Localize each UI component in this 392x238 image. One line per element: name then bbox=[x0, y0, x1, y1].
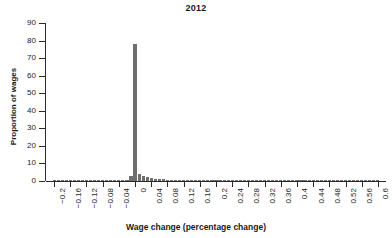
histogram-bar bbox=[271, 180, 274, 181]
histogram-bar bbox=[210, 180, 213, 181]
histogram-bar bbox=[291, 180, 294, 181]
histogram-bar bbox=[239, 180, 242, 181]
x-tick-label: −0.12 bbox=[90, 188, 99, 222]
x-tick-label: 0.36 bbox=[284, 188, 293, 222]
histogram-bar bbox=[97, 180, 100, 181]
y-tick-mark bbox=[39, 23, 45, 24]
x-tick-mark bbox=[135, 182, 136, 187]
x-tick-mark bbox=[313, 182, 314, 187]
x-tick-mark bbox=[297, 182, 298, 187]
histogram-bar bbox=[287, 180, 290, 181]
y-tick-mark bbox=[39, 146, 45, 147]
x-tick-mark bbox=[329, 182, 330, 187]
x-tick-mark bbox=[119, 182, 120, 187]
y-tick-label: 80 bbox=[0, 36, 36, 45]
histogram-bar bbox=[332, 180, 335, 181]
histogram-bar bbox=[312, 180, 315, 181]
histogram-bar bbox=[178, 180, 181, 181]
x-tick-label: 0 bbox=[139, 188, 148, 222]
y-tick-label: 20 bbox=[0, 141, 36, 150]
y-tick-label: 90 bbox=[0, 18, 36, 27]
x-tick-label: 0.24 bbox=[236, 188, 245, 222]
x-tick-mark bbox=[346, 182, 347, 187]
histogram-bar bbox=[133, 44, 136, 181]
histogram-bar bbox=[57, 180, 60, 181]
histogram-bar bbox=[344, 180, 347, 181]
histogram-bar bbox=[53, 180, 56, 181]
x-tick-label: 0.48 bbox=[333, 188, 342, 222]
histogram-bar bbox=[206, 180, 209, 181]
x-tick-mark bbox=[248, 182, 249, 187]
histogram-bar bbox=[223, 180, 226, 181]
histogram-bar bbox=[65, 180, 68, 181]
y-tick-mark bbox=[39, 58, 45, 59]
y-tick-mark bbox=[39, 93, 45, 94]
y-tick-mark bbox=[39, 181, 45, 182]
y-tick-label: 70 bbox=[0, 53, 36, 62]
y-tick-mark bbox=[39, 41, 45, 42]
histogram-bar bbox=[121, 180, 124, 181]
histogram-bar bbox=[279, 180, 282, 181]
histogram-bar bbox=[348, 180, 351, 181]
histogram-bar bbox=[174, 180, 177, 181]
histogram-bar bbox=[138, 174, 141, 181]
x-tick-mark bbox=[200, 182, 201, 187]
histogram-bar bbox=[109, 180, 112, 181]
histogram-bar bbox=[376, 180, 379, 181]
histogram-bar bbox=[255, 180, 258, 181]
histogram-bar bbox=[295, 180, 298, 181]
histogram-bar bbox=[340, 180, 343, 181]
y-tick-label: 10 bbox=[0, 158, 36, 167]
histogram-bar bbox=[194, 180, 197, 181]
x-tick-mark bbox=[232, 182, 233, 187]
x-tick-mark bbox=[54, 182, 55, 187]
histogram-bar bbox=[368, 180, 371, 181]
histogram-bar bbox=[113, 180, 116, 181]
histogram-bar bbox=[150, 178, 153, 181]
histogram-bar bbox=[158, 179, 161, 181]
histogram-bar bbox=[231, 180, 234, 181]
histogram-bar bbox=[336, 180, 339, 181]
y-tick-mark bbox=[39, 111, 45, 112]
histogram-bar bbox=[166, 180, 169, 181]
x-tick-label: 0.44 bbox=[317, 188, 326, 222]
histogram-bar bbox=[360, 180, 363, 181]
histogram-bars bbox=[46, 23, 386, 181]
histogram-bar bbox=[218, 180, 221, 181]
histogram-bar bbox=[182, 180, 185, 181]
histogram-bar bbox=[129, 176, 132, 181]
histogram-bar bbox=[251, 180, 254, 181]
x-tick-mark bbox=[103, 182, 104, 187]
histogram-bar bbox=[364, 180, 367, 181]
x-tick-label: 0.08 bbox=[171, 188, 180, 222]
histogram-bar bbox=[308, 180, 311, 181]
histogram-bar bbox=[352, 180, 355, 181]
x-tick-mark bbox=[151, 182, 152, 187]
histogram-bar bbox=[154, 179, 157, 181]
y-tick-label: 30 bbox=[0, 123, 36, 132]
histogram-bar bbox=[93, 180, 96, 181]
x-tick-mark bbox=[216, 182, 217, 187]
histogram-bar bbox=[117, 180, 120, 181]
histogram-bar bbox=[202, 180, 205, 181]
histogram-bar bbox=[372, 180, 375, 181]
x-tick-mark bbox=[167, 182, 168, 187]
y-tick-label: 40 bbox=[0, 106, 36, 115]
x-tick-mark bbox=[70, 182, 71, 187]
histogram-bar bbox=[61, 180, 64, 181]
histogram-bar bbox=[259, 180, 262, 181]
histogram-bar bbox=[356, 180, 359, 181]
histogram-bar bbox=[142, 176, 145, 181]
histogram-bar bbox=[214, 180, 217, 181]
x-tick-label: 0.6 bbox=[381, 188, 390, 222]
x-tick-label: 0.2 bbox=[220, 188, 229, 222]
y-tick-label: 60 bbox=[0, 71, 36, 80]
x-tick-label: 0.16 bbox=[203, 188, 212, 222]
histogram-bar bbox=[283, 180, 286, 181]
y-tick-label: 50 bbox=[0, 88, 36, 97]
histogram-bar bbox=[247, 180, 250, 181]
histogram-bar bbox=[198, 180, 201, 181]
histogram-bar bbox=[170, 180, 173, 181]
y-tick-mark bbox=[39, 76, 45, 77]
x-tick-mark bbox=[265, 182, 266, 187]
